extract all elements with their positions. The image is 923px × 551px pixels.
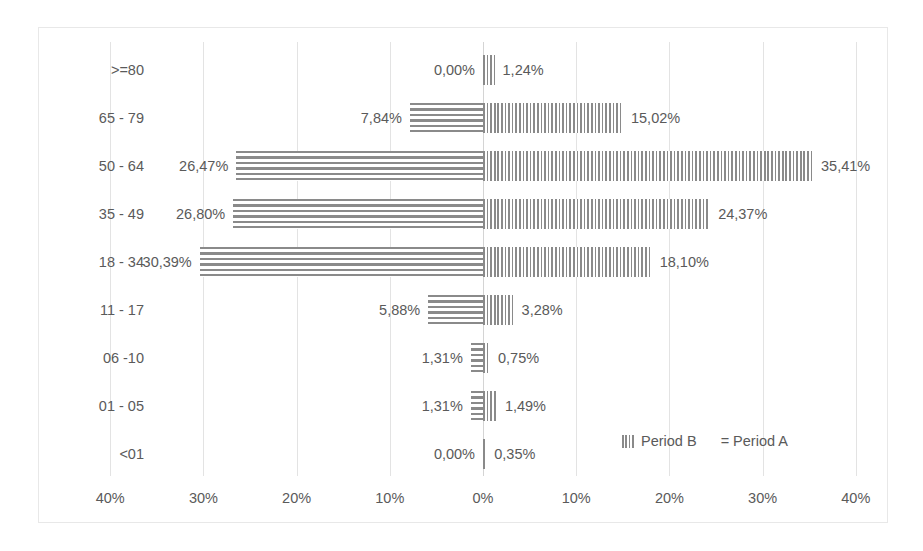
value-label-period-a: 7,84% [332,94,402,142]
value-label-period-b: 24,37% [718,190,788,238]
bar-period-b [483,103,623,133]
bar-period-a [236,151,483,181]
value-label-period-a: 0,00% [405,430,475,478]
bar-period-a [233,199,483,229]
value-label-period-b: 35,41% [821,142,891,190]
bar-period-b [483,391,497,421]
bar-row: 65 - 797,84%15,02% [39,94,889,142]
value-label-period-b: 1,24% [503,46,573,94]
value-label-period-a: 5,88% [350,286,420,334]
value-label-period-a: 1,31% [393,382,463,430]
value-label-period-b: 15,02% [631,94,701,142]
value-label-period-b: 3,28% [522,286,592,334]
value-label-period-b: 0,75% [498,334,568,382]
bar-row: 18 - 3430,39%18,10% [39,238,889,286]
bar-period-a [471,343,483,373]
value-label-period-b: 18,10% [660,238,730,286]
bar-row: 50 - 6426,47%35,41% [39,142,889,190]
bar-period-b [483,199,710,229]
value-label-period-a: 0,00% [405,46,475,94]
bar-row: >=800,00%1,24% [39,46,889,94]
category-label: <01 [39,430,144,478]
value-label-period-a: 26,47% [158,142,228,190]
bar-row: 35 - 4926,80%24,37% [39,190,889,238]
x-tick-label: 40% [826,490,886,506]
x-axis: 40%30%20%10%0%10%20%30%40% [39,478,889,522]
bar-row: 06 -101,31%0,75% [39,334,889,382]
bar-period-a [410,103,483,133]
bar-period-a [200,247,483,277]
chart-legend: Period B = Period A [622,428,812,454]
bar-period-b [483,439,486,469]
x-tick-label: 30% [733,490,793,506]
x-tick-label: 0% [453,490,513,506]
bar-period-b [483,247,652,277]
bar-row: 01 - 051,31%1,49% [39,382,889,430]
category-label: 50 - 64 [39,142,144,190]
legend-label-period-b: Period B [641,433,697,449]
value-label-period-b: 1,49% [505,382,575,430]
bar-period-b [483,151,813,181]
chart-container: >=800,00%1,24%65 - 797,84%15,02%50 - 642… [38,27,888,523]
category-label: 11 - 17 [39,286,144,334]
bar-row: 11 - 175,88%3,28% [39,286,889,334]
legend-label-period-a: = Period A [721,433,788,449]
value-label-period-a: 30,39% [122,238,192,286]
x-tick-label: 30% [173,490,233,506]
value-label-period-a: 26,80% [155,190,225,238]
legend-entry-period-a: = Period A [721,433,788,449]
value-label-period-b: 0,35% [494,430,564,478]
bar-period-a [471,391,483,421]
bar-period-b [483,55,495,85]
x-tick-label: 20% [267,490,327,506]
value-label-period-a: 1,31% [393,334,463,382]
bar-period-b [483,343,490,373]
legend-entry-period-b: Period B [622,433,697,449]
x-tick-label: 10% [546,490,606,506]
bar-period-a [428,295,483,325]
category-label: 65 - 79 [39,94,144,142]
category-label: >=80 [39,46,144,94]
x-tick-label: 20% [639,490,699,506]
category-label: 01 - 05 [39,382,144,430]
x-tick-label: 40% [80,490,140,506]
x-tick-label: 10% [360,490,420,506]
category-label: 35 - 49 [39,190,144,238]
category-label: 06 -10 [39,334,144,382]
bar-period-b [483,295,514,325]
legend-swatch-vertical-stripes-icon [622,435,635,448]
